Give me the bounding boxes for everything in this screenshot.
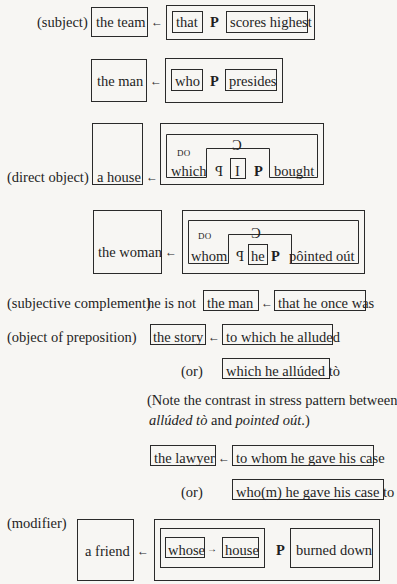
antecedent-text: a house [97, 170, 141, 185]
predicate-text: presides [229, 74, 277, 89]
head-noun: house [225, 543, 259, 558]
subject-marker-text: P [236, 249, 244, 264]
clause-text: to which he alluded [226, 330, 340, 345]
arrow-left-icon: ← [261, 297, 273, 309]
arrow-right-icon: → [207, 544, 217, 554]
predication-marker: P [254, 164, 263, 179]
arrow-left-icon: ← [165, 246, 177, 258]
or-text: (or) [181, 364, 203, 379]
do-marker: DO [177, 149, 191, 158]
subject-text: he [251, 249, 265, 264]
antecedent-text: the man [97, 74, 143, 89]
note-end: .) [301, 412, 309, 428]
note-line-2: allúded tò and pointed oút.) [149, 413, 310, 428]
antecedent-text: a friend [85, 544, 130, 559]
antecedent-text: the lawyer [154, 451, 215, 466]
predication-marker: P [210, 15, 219, 30]
c-marker-text: C [232, 138, 242, 153]
predication-marker: P [210, 74, 219, 89]
antecedent-text: the man [207, 296, 253, 311]
prefix-text: he is not [147, 296, 196, 311]
antecedent-box [93, 210, 162, 274]
arrow-left-icon: ← [137, 545, 149, 557]
subject-text: I [235, 164, 240, 179]
relative-pronoun: which [171, 164, 206, 179]
note-em-2: pointed oút [236, 412, 302, 428]
predicate-text: scores highest [230, 15, 312, 30]
predicate-text: bought [274, 164, 314, 179]
c-marker-text: C [251, 226, 261, 241]
label-subject: (subject) [37, 15, 88, 30]
note-em-1: allúded tò [149, 412, 207, 428]
clause-text: to whom he gave his case [236, 451, 385, 466]
label-direct-object: (direct object) [7, 170, 89, 185]
predication-marker: P [276, 543, 285, 558]
antecedent-text: the woman [98, 245, 162, 260]
do-marker: DO [198, 232, 212, 241]
antecedent-text: the story [153, 330, 203, 345]
c-marker: C [232, 138, 242, 153]
arrow-left-icon: ← [151, 16, 163, 28]
arrow-left-icon: ← [218, 452, 230, 464]
relative-pronoun: whose [168, 543, 205, 558]
note-and: and [207, 412, 235, 428]
label-object-of-preposition: (object of preposition) [7, 330, 137, 345]
subject-marker: P [215, 164, 223, 179]
predicate-text: pôinted oút [289, 249, 355, 264]
c-marker: C [251, 226, 261, 241]
subject-marker-text: P [215, 164, 223, 179]
relative-pronoun: who [175, 74, 200, 89]
label-subjective-complement: (subjective complement) [7, 296, 151, 311]
alt-clause-text: who(m) he gave his case to [236, 485, 394, 500]
or-text: (or) [181, 485, 203, 500]
predicate-text: burned down [296, 543, 372, 558]
clause-text: that he once was [278, 296, 374, 311]
antecedent-text: the team [96, 15, 146, 30]
label-modifier: (modifier) [7, 516, 67, 531]
arrow-left-icon: ← [150, 75, 162, 87]
relative-pronoun: whom [191, 249, 227, 264]
note-line-1: (Note the contrast in stress pattern bet… [147, 393, 397, 408]
alt-clause-text: which he allúded tò [226, 364, 340, 379]
predication-marker: P [271, 249, 280, 264]
subject-marker: P [236, 249, 244, 264]
arrow-left-icon: ← [146, 171, 158, 183]
arrow-left-icon: ← [208, 331, 220, 343]
relative-pronoun: that [176, 15, 198, 30]
